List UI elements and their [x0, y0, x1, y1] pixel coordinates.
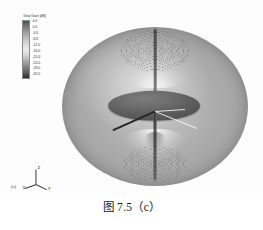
colorbar-tick: -12.0 [33, 44, 41, 48]
colorbar-tick: -32.0 [33, 73, 41, 77]
subfigure-label: (c) [11, 185, 16, 190]
axis-line-y [36, 184, 47, 190]
colorbar-legend: Total Gain [dB] 4.0 0.0 -4.0 -8.0 -12.0 … [22, 14, 66, 79]
z-axis-pinch-top [154, 29, 157, 97]
colorbar-tick: -16.0 [33, 50, 41, 54]
colorbar-body: 4.0 0.0 -4.0 -8.0 -12.0 -16.0 -20.0 -24.… [22, 20, 66, 79]
colorbar-tick: -20.0 [33, 56, 41, 60]
colorbar-gradient-swatch [22, 20, 30, 79]
colorbar-tick-list: 4.0 0.0 -4.0 -8.0 -12.0 -16.0 -20.0 -24.… [33, 20, 41, 78]
z-axis-pinch-bottom [154, 118, 157, 180]
colorbar-title: Total Gain [dB] [22, 14, 66, 18]
colorbar-tick: -28.0 [33, 67, 41, 71]
radiation-pattern-3d [62, 27, 248, 186]
axis-label-x: X [23, 186, 26, 190]
colorbar-tick: -24.0 [33, 62, 41, 66]
colorbar-tick: 0.0 [33, 26, 41, 30]
figure-caption: 图 7.5（c） [0, 198, 263, 214]
colorbar-tick: 4.0 [33, 20, 41, 24]
figure-panel: Total Gain [dB] 4.0 0.0 -4.0 -8.0 -12.0 … [0, 0, 263, 196]
colorbar-tick: -8.0 [33, 38, 41, 42]
axis-line-z [35, 170, 36, 185]
axis-label-y: Y [48, 187, 50, 191]
axis-line-x [25, 184, 37, 189]
colorbar-tick: -4.0 [33, 32, 41, 36]
axis-label-z: Z [38, 166, 40, 170]
axis-triad: Z X Y (c) [17, 166, 63, 192]
